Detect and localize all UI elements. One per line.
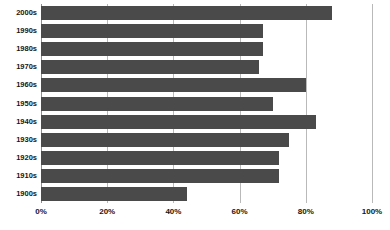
bar-1980s	[41, 42, 263, 56]
y-axis-tick-label: 1920s	[0, 151, 37, 165]
bar-row	[41, 78, 372, 92]
x-axis-tick-label: 60%	[232, 207, 248, 216]
bar-row	[41, 187, 372, 201]
bar-row	[41, 60, 372, 74]
y-axis-tick-label: 1960s	[0, 78, 37, 92]
y-axis-tick-label: 1950s	[0, 97, 37, 111]
bar-1940s	[41, 115, 316, 129]
bar-1910s	[41, 169, 279, 183]
y-axis-tick-label: 1900s	[0, 187, 37, 201]
y-axis-tick-label: 1930s	[0, 133, 37, 147]
y-axis-tick-label: 2000s	[0, 6, 37, 20]
x-axis-tick-label: 0%	[35, 207, 47, 216]
bar-1930s	[41, 133, 289, 147]
y-axis-tick-label: 1970s	[0, 60, 37, 74]
x-axis-tick-label: 40%	[165, 207, 181, 216]
y-axis-tick-label: 1940s	[0, 115, 37, 129]
bar-1950s	[41, 97, 273, 111]
bar-row	[41, 115, 372, 129]
bar-1900s	[41, 187, 187, 201]
bar-row	[41, 133, 372, 147]
y-axis-tick-label: 1980s	[0, 42, 37, 56]
x-axis-tick-label: 80%	[298, 207, 314, 216]
x-axis-labels: 0%20%40%60%80%100%	[0, 207, 390, 225]
bar-row	[41, 169, 372, 183]
bar-chart: 2000s1990s1980s1970s1960s1950s1940s1930s…	[0, 0, 390, 230]
bar-row	[41, 42, 372, 56]
bar-row	[41, 6, 372, 20]
plot-area	[41, 4, 372, 203]
bar-1970s	[41, 60, 259, 74]
y-axis-tick-label: 1990s	[0, 24, 37, 38]
y-axis-tick-label: 1910s	[0, 169, 37, 183]
bar-1990s	[41, 24, 263, 38]
gridline-100%	[372, 4, 373, 203]
bar-2000s	[41, 6, 332, 20]
bar-row	[41, 151, 372, 165]
y-axis-labels: 2000s1990s1980s1970s1960s1950s1940s1930s…	[0, 4, 37, 203]
bar-1920s	[41, 151, 279, 165]
x-axis-tick-label: 20%	[99, 207, 115, 216]
bar-row	[41, 97, 372, 111]
bar-row	[41, 24, 372, 38]
bar-1960s	[41, 78, 306, 92]
x-axis-tick-label: 100%	[362, 207, 382, 216]
